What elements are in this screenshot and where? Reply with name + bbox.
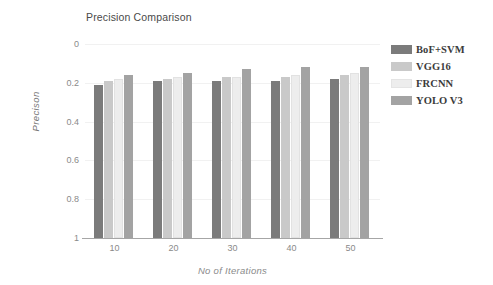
- chart-title: Precision Comparison: [86, 11, 192, 23]
- bar: [340, 75, 349, 238]
- bar-group: [94, 44, 133, 238]
- bar: [222, 77, 231, 238]
- bars-layer: [85, 44, 380, 238]
- y-axis-tick-label: 1: [53, 234, 79, 243]
- bar: [94, 85, 103, 238]
- bar: [330, 79, 339, 238]
- y-axis-tick-label: 0.8: [53, 195, 79, 204]
- x-axis-tick-label: 20: [154, 243, 194, 253]
- legend-swatch-frcnn: [391, 79, 412, 88]
- x-axis-tick-label: 40: [272, 243, 312, 253]
- x-axis-tick-label: 10: [95, 243, 135, 253]
- x-axis-tick-label: 30: [213, 243, 253, 253]
- bar: [242, 69, 251, 238]
- bar: [163, 79, 172, 238]
- legend-item-label: BoF+SVM: [416, 44, 465, 55]
- legend-swatch-bof-svm: [391, 45, 412, 54]
- legend-item[interactable]: BoF+SVM: [391, 41, 489, 57]
- bar: [350, 73, 359, 238]
- legend-swatch-vgg16: [391, 62, 412, 71]
- x-axis-tick-labels: 1020304050: [85, 243, 380, 257]
- y-axis-tick-labels: 10.80.60.40.20: [52, 44, 79, 238]
- bar-group: [212, 44, 251, 238]
- legend-item-label: FRCNN: [416, 78, 453, 89]
- y-axis-tick-label: 0.2: [53, 79, 79, 88]
- y-axis-tick-label: 0: [53, 40, 79, 49]
- bar: [114, 79, 123, 238]
- bar: [291, 75, 300, 238]
- bar: [360, 67, 369, 238]
- legend-item-label: VGG16: [416, 61, 451, 72]
- y-axis-title: Precison: [30, 77, 41, 147]
- bar: [173, 77, 182, 238]
- bar: [232, 77, 241, 238]
- x-axis-line: [82, 238, 383, 239]
- x-axis-title: No of Iterations: [85, 265, 380, 276]
- x-axis-tick-label: 50: [331, 243, 371, 253]
- bar-group: [330, 44, 369, 238]
- legend-item[interactable]: FRCNN: [391, 75, 489, 91]
- bar: [212, 81, 221, 238]
- bar: [183, 73, 192, 238]
- precision-comparison-chart: Precision Comparison Precison 10.80.60.4…: [0, 0, 493, 285]
- bar: [281, 77, 290, 238]
- bar: [271, 81, 280, 238]
- bar-group: [271, 44, 310, 238]
- y-axis-tick-label: 0.4: [53, 118, 79, 127]
- legend-item[interactable]: VGG16: [391, 58, 489, 74]
- chart-legend: BoF+SVMVGG16FRCNNYOLO V3: [391, 41, 489, 109]
- legend-item-label: YOLO V3: [416, 95, 463, 106]
- bar: [153, 81, 162, 238]
- y-axis-tick-label: 0.6: [53, 156, 79, 165]
- legend-item[interactable]: YOLO V3: [391, 92, 489, 108]
- bar: [124, 75, 133, 238]
- bar-group: [153, 44, 192, 238]
- bar: [301, 67, 310, 238]
- bar: [104, 81, 113, 238]
- legend-swatch-yolo-v3: [391, 96, 412, 105]
